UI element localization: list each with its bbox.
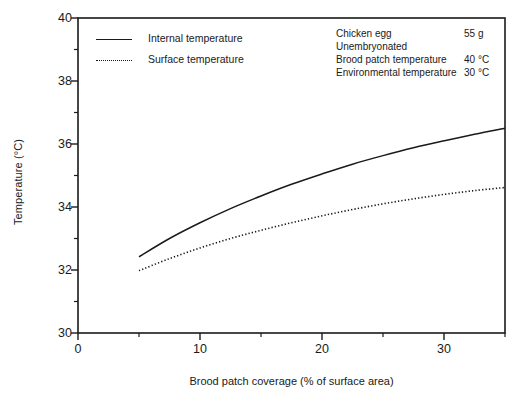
x-tick-label: 30 xyxy=(424,342,464,356)
annotation-key: Environmental temperature xyxy=(336,67,457,78)
legend-item: Internal temperature xyxy=(96,30,286,51)
x-axis-tick-labels: 0102030 xyxy=(0,342,518,362)
legend-swatch-solid-line-icon xyxy=(96,39,132,42)
annotation-row: Chicken egg 55 g xyxy=(336,28,502,41)
chart-legend: Internal temperature Surface temperature xyxy=(96,30,286,72)
annotation-row: Unembryonated xyxy=(336,41,502,54)
x-tick-label: 20 xyxy=(302,342,342,356)
legend-label: Surface temperature xyxy=(148,53,244,65)
legend-item: Surface temperature xyxy=(96,51,286,72)
y-tick-label: 30 xyxy=(34,327,72,339)
x-axis-ticks xyxy=(78,333,505,340)
annotation-row: Brood patch temperature 40 °C xyxy=(336,54,502,67)
y-tick-label: 34 xyxy=(34,201,72,213)
series-surface-temperature xyxy=(139,187,505,270)
y-axis-label: Temperature (°C) xyxy=(12,102,24,262)
annotation-key: Unembryonated xyxy=(336,41,407,52)
annotation-row: Environmental temperature 30 °C xyxy=(336,67,502,80)
y-tick-label: 32 xyxy=(34,264,72,276)
x-tick-label: 10 xyxy=(180,342,220,356)
x-axis-label: Brood patch coverage (% of surface area) xyxy=(78,375,505,387)
annotation-key: Chicken egg xyxy=(336,28,392,39)
series-internal-temperature xyxy=(139,128,505,257)
annotation-key: Brood patch temperature xyxy=(336,54,447,65)
annotation-value: 30 °C xyxy=(464,67,489,78)
annotation-value: 55 g xyxy=(464,28,483,39)
x-tick-label: 0 xyxy=(58,342,98,356)
y-tick-label: 38 xyxy=(34,75,72,87)
legend-swatch-dotted-line-icon xyxy=(96,60,132,63)
y-axis-ticks xyxy=(71,18,78,333)
y-tick-label: 36 xyxy=(34,138,72,150)
y-tick-label: 40 xyxy=(34,12,72,24)
legend-label: Internal temperature xyxy=(148,32,243,44)
annotation-block: Chicken egg 55 g Unembryonated Brood pat… xyxy=(336,28,502,80)
annotation-value: 40 °C xyxy=(464,54,489,65)
chart-figure: 303234363840 0102030 Temperature (°C) Br… xyxy=(0,0,518,406)
